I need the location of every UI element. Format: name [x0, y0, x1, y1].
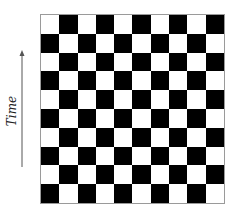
board-cell [169, 184, 187, 203]
board-cell [114, 71, 132, 90]
board-cell [187, 53, 205, 72]
board-cell [151, 34, 169, 53]
board-cell [169, 90, 187, 109]
board-cell [96, 147, 114, 166]
board-cell [41, 147, 59, 166]
board-cell [187, 71, 205, 90]
board-cell [59, 128, 77, 147]
board-cell [96, 71, 114, 90]
board-cell [78, 165, 96, 184]
board-cell [187, 34, 205, 53]
board-cell [41, 165, 59, 184]
board-cell [78, 184, 96, 203]
board-cell [78, 71, 96, 90]
board-cell [96, 90, 114, 109]
board-cell [169, 15, 187, 34]
board-cell [151, 128, 169, 147]
board-cell [96, 128, 114, 147]
board-cell [96, 34, 114, 53]
board-cell [151, 15, 169, 34]
board-cell [169, 128, 187, 147]
board-cell [206, 165, 224, 184]
board-cell [114, 184, 132, 203]
board-cell [206, 109, 224, 128]
board-cell [41, 15, 59, 34]
board-cell [41, 128, 59, 147]
board-cell [132, 147, 150, 166]
board-cell [78, 53, 96, 72]
board-cell [187, 128, 205, 147]
board-cell [132, 53, 150, 72]
board-cell [78, 15, 96, 34]
board-cell [132, 165, 150, 184]
board-cell [187, 147, 205, 166]
board-cell [206, 184, 224, 203]
board-cell [96, 15, 114, 34]
board-cell [41, 109, 59, 128]
board-cell [132, 71, 150, 90]
board-cell [169, 34, 187, 53]
board-cell [59, 34, 77, 53]
board-cell [206, 90, 224, 109]
board-cell [114, 90, 132, 109]
board-cell [59, 71, 77, 90]
board-cell [114, 34, 132, 53]
board-cell [206, 34, 224, 53]
board-cell [206, 71, 224, 90]
board-cell [206, 15, 224, 34]
board-cell [132, 34, 150, 53]
board-cell [96, 53, 114, 72]
board-cell [132, 128, 150, 147]
board-cell [132, 109, 150, 128]
board-cell [187, 109, 205, 128]
board-cell [59, 109, 77, 128]
board-cell [114, 165, 132, 184]
board-cell [169, 165, 187, 184]
board-cell [169, 109, 187, 128]
board-cell [151, 109, 169, 128]
board-cell [114, 15, 132, 34]
board-cell [132, 90, 150, 109]
board-cell [151, 184, 169, 203]
board-cell [187, 15, 205, 34]
board-cell [132, 184, 150, 203]
board-cell [41, 90, 59, 109]
board-cell [114, 128, 132, 147]
board-cell [169, 53, 187, 72]
board-cell [151, 53, 169, 72]
board-cell [59, 53, 77, 72]
board-cell [151, 90, 169, 109]
board-cell [169, 71, 187, 90]
board-cell [132, 15, 150, 34]
board-cell [114, 147, 132, 166]
board-cell [169, 147, 187, 166]
board-cell [41, 184, 59, 203]
board-cell [41, 71, 59, 90]
board-cell [78, 147, 96, 166]
board-cell [187, 184, 205, 203]
board-cell [206, 128, 224, 147]
board-cell [41, 34, 59, 53]
board-cell [59, 15, 77, 34]
board-cell [151, 165, 169, 184]
board-cell [96, 109, 114, 128]
board-cell [96, 184, 114, 203]
time-axis-label: Time [4, 91, 20, 131]
board-cell [206, 147, 224, 166]
board-cell [59, 165, 77, 184]
board-cell [114, 53, 132, 72]
board-cell [151, 71, 169, 90]
board-cell [78, 128, 96, 147]
board-cell [114, 109, 132, 128]
board-cell [59, 147, 77, 166]
board-cell [151, 147, 169, 166]
checkerboard [40, 14, 225, 204]
board-cell [78, 90, 96, 109]
board-cell [206, 53, 224, 72]
board-cell [41, 53, 59, 72]
board-cell [96, 165, 114, 184]
board-cell [187, 165, 205, 184]
board-cell [78, 109, 96, 128]
board-cell [78, 34, 96, 53]
board-cell [59, 90, 77, 109]
